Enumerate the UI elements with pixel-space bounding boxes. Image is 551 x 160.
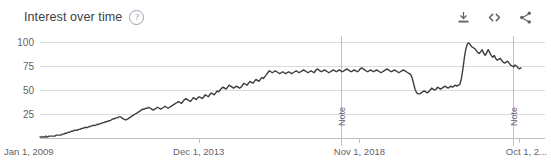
download-icon[interactable] [456, 10, 471, 25]
x-axis-tick-label: Dec 1, 2013 [173, 146, 224, 157]
help-icon[interactable]: ? [129, 10, 144, 25]
annotation-label[interactable]: Note [337, 107, 347, 126]
widget-header: Interest over time ? [0, 0, 551, 34]
title-group: Interest over time ? [24, 10, 144, 25]
x-axis-labels: Jan 1, 2009Dec 1, 2013Nov 1, 2018Oct 1, … [4, 146, 547, 157]
y-axis-tick-label: 25 [23, 109, 35, 120]
annotation-labels: NoteNote [337, 107, 519, 126]
embed-icon[interactable] [487, 10, 502, 25]
interest-over-time-chart: 100755025 NoteNote Jan 1, 2009Dec 1, 201… [0, 34, 551, 160]
y-axis-tick-label: 100 [17, 37, 34, 48]
x-axis-tick-label: Oct 1, 2... [506, 146, 547, 157]
page-title: Interest over time [24, 10, 122, 24]
share-icon[interactable] [518, 10, 533, 25]
y-axis-tick-label: 75 [23, 61, 35, 72]
y-axis-labels: 100755025 [17, 37, 34, 120]
chart-plot-area[interactable]: 100755025 NoteNote Jan 1, 2009Dec 1, 201… [0, 34, 551, 160]
interest-over-time-widget: Interest over time ? [0, 0, 551, 160]
annotation-label[interactable]: Note [509, 107, 519, 126]
gridlines [40, 43, 545, 139]
action-icons [456, 10, 533, 25]
y-axis-tick-label: 50 [23, 85, 35, 96]
x-axis-tick-label: Jan 1, 2009 [4, 146, 54, 157]
x-axis-tick-label: Nov 1, 2018 [334, 146, 385, 157]
